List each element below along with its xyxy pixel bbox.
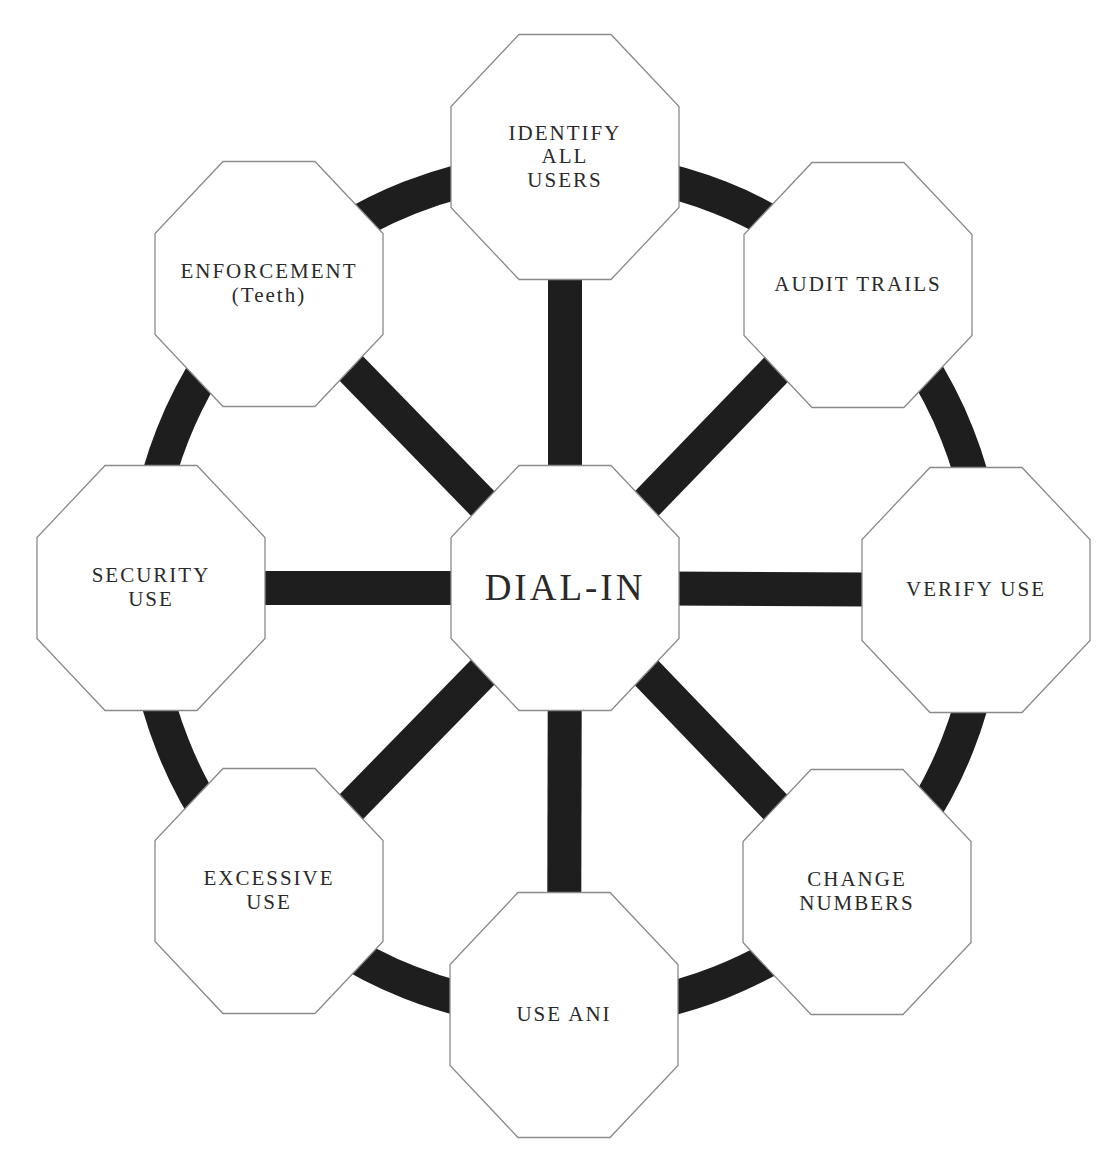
octagon-nodes [37, 35, 1090, 1138]
octagon-audit-trails [744, 163, 972, 408]
octagon-excessive-use [155, 769, 383, 1014]
diagram-graphics [0, 0, 1115, 1159]
octagon-verify-use [862, 468, 1090, 713]
octagon-change-numbers [743, 770, 971, 1015]
octagon-enforcement [155, 162, 383, 407]
octagon-dial-in [451, 466, 679, 711]
octagon-identify-all-users [451, 35, 679, 280]
octagon-use-ani [450, 893, 678, 1138]
dial-in-security-diagram: DIAL-IN IDENTIFY ALL USERS AUDIT TRAILS … [0, 0, 1115, 1159]
octagon-security-use [37, 466, 265, 711]
